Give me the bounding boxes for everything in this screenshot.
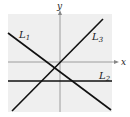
x-axis-arrow-icon [114, 60, 119, 64]
y-axis-label: y [56, 1, 63, 11]
lines-diagram: x y L1 L2 L3 [0, 0, 130, 117]
x-axis-label: x [121, 57, 126, 67]
